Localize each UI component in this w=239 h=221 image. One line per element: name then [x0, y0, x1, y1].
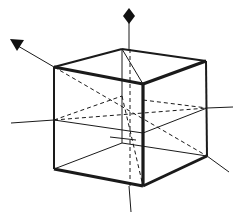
edge-right-vertical: [206, 61, 207, 156]
cube-diagram: [0, 0, 239, 221]
background: [0, 0, 239, 221]
